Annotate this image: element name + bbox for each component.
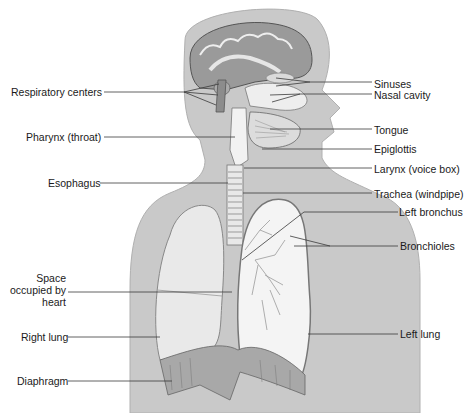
brainstem: [216, 80, 226, 112]
label-left-bronchus: Left bronchus: [399, 206, 463, 218]
label-space-heart: Space occupied by heart: [6, 272, 66, 308]
label-bronchioles: Bronchioles: [400, 240, 455, 252]
label-epiglottis: Epiglottis: [374, 143, 417, 155]
pharynx-shape: [230, 108, 248, 168]
trachea-shape: [227, 165, 243, 245]
label-left-lung: Left lung: [400, 328, 440, 340]
label-esophagus: Esophagus: [48, 177, 101, 189]
label-larynx: Larynx (voice box): [374, 163, 460, 175]
label-pharynx: Pharynx (throat): [26, 131, 101, 143]
label-diaphragm: Diaphragm: [17, 375, 68, 387]
label-nasal-cavity: Nasal cavity: [374, 89, 431, 101]
label-right-lung: Right lung: [21, 331, 68, 343]
label-tongue: Tongue: [374, 124, 408, 136]
label-trachea: Trachea (windpipe): [374, 188, 464, 200]
label-respiratory-centers: Respiratory centers: [11, 86, 102, 98]
